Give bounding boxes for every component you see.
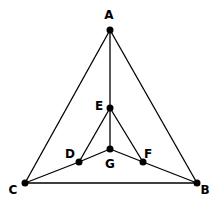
- graph-diagram: ABCDEFG: [0, 0, 220, 207]
- node-d: [76, 159, 83, 166]
- edge-g-f: [110, 149, 143, 162]
- node-label-d: D: [65, 147, 75, 161]
- node-label-a: A: [104, 8, 114, 22]
- node-e: [107, 105, 114, 112]
- node-a: [107, 27, 114, 34]
- edge-c-d: [25, 162, 79, 183]
- edge-e-d: [79, 108, 110, 162]
- edge-a-b: [110, 30, 197, 183]
- node-label-g: G: [105, 157, 115, 171]
- node-g: [107, 146, 114, 153]
- node-label-c: C: [9, 183, 18, 197]
- node-c: [22, 180, 29, 187]
- node-label-e: E: [95, 99, 103, 113]
- labels-group: ABCDEFG: [9, 8, 210, 197]
- node-label-b: B: [200, 183, 209, 197]
- edge-e-f: [110, 108, 143, 162]
- graph-canvas: ABCDEFG: [0, 0, 220, 207]
- edge-f-b: [143, 162, 197, 183]
- node-label-f: F: [144, 147, 152, 161]
